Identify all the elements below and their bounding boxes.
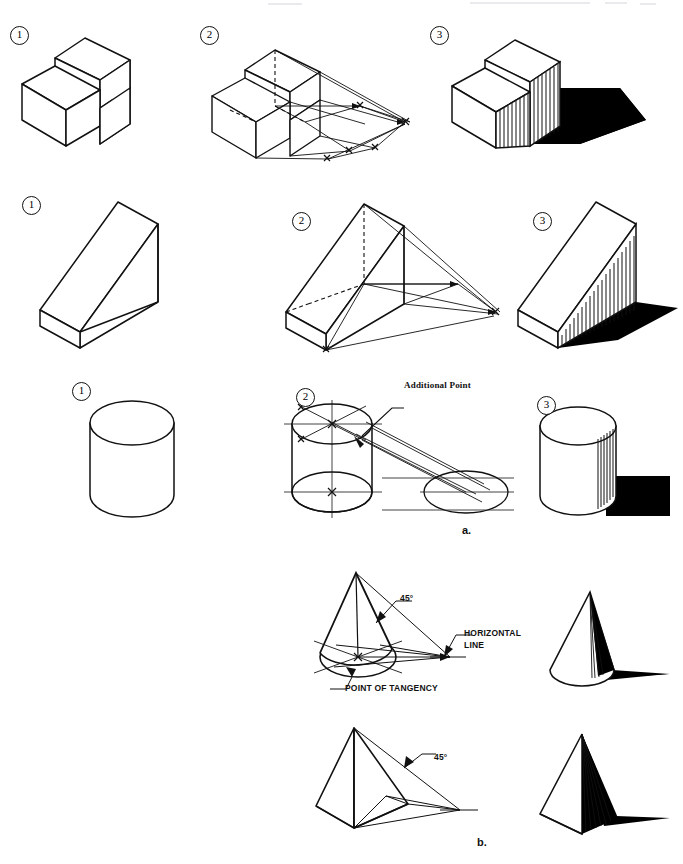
pyr-angle-arrowhead <box>404 756 414 768</box>
pyr-right-face <box>354 728 408 828</box>
pyr3-left-face <box>540 734 582 834</box>
step-badge-3c: 3 <box>537 396 556 415</box>
step-block-figure-1 <box>20 22 180 162</box>
cylinder-figure-3 <box>520 400 680 535</box>
pyramid-construction-figure <box>300 718 510 843</box>
horizontal-line-label-1: HORIZONTAL <box>464 628 521 638</box>
step-block-figure-2 <box>200 18 450 163</box>
cyl1-top-ellipse <box>90 401 174 445</box>
caption-b: b. <box>477 836 487 848</box>
cylinder-figure-2 <box>270 392 530 537</box>
step-badge-2a: 2 <box>200 26 219 45</box>
step-block-figure-3 <box>430 22 670 162</box>
page-scan-artifact <box>0 0 683 12</box>
pyramid-rendered-figure <box>520 722 683 842</box>
pyramid-angle-label: 45° <box>434 752 447 762</box>
plate-page: 1 <box>0 0 683 864</box>
step-badge-1a: 1 <box>10 26 29 45</box>
pyr-left-face <box>316 728 354 828</box>
step-badge-2c: 2 <box>296 388 315 407</box>
cone-rendered-figure <box>520 578 683 693</box>
horizontal-line-label-2: LINE <box>464 640 484 650</box>
step-badge-2b: 2 <box>292 212 311 231</box>
step-badge-1c: 1 <box>72 382 91 401</box>
cone-angle-label: 45° <box>400 593 413 603</box>
step-badge-3a: 3 <box>430 26 449 45</box>
step-badge-3b: 3 <box>533 212 552 231</box>
additional-point-label: Additional Point <box>404 380 471 390</box>
wedge-figure-1 <box>22 190 212 355</box>
step-badge-1b: 1 <box>22 196 41 215</box>
point-of-tangency-label: POINT OF TANGENCY <box>345 683 438 693</box>
cylinder-figure-1 <box>72 395 212 535</box>
caption-a: a. <box>462 524 471 536</box>
wedge-figure-3 <box>500 190 683 360</box>
